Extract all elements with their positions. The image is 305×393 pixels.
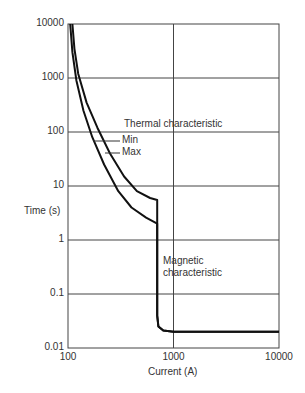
y-tick-label: 100 bbox=[4, 125, 64, 136]
chart-plot-area bbox=[0, 0, 305, 393]
magnetic-label-line1: Magnetic bbox=[163, 255, 204, 266]
y-tick-label: 10 bbox=[4, 179, 64, 190]
max-label: Max bbox=[122, 146, 141, 157]
y-axis-label: Time (s) bbox=[24, 205, 60, 216]
x-tick-label: 100 bbox=[43, 351, 93, 362]
y-tick-label: 1000 bbox=[4, 71, 64, 82]
thermal-characteristic-label: Thermal characteristic bbox=[124, 118, 222, 129]
magnetic-label-line2: characteristic bbox=[163, 267, 222, 278]
y-tick-label: 0.1 bbox=[4, 287, 64, 298]
curve-min bbox=[70, 24, 279, 332]
y-tick-label: 1 bbox=[4, 233, 64, 244]
x-axis-label: Current (A) bbox=[148, 366, 197, 377]
curve-max bbox=[72, 24, 279, 332]
x-tick-label: 1000 bbox=[149, 351, 199, 362]
x-tick-label: 10000 bbox=[254, 351, 304, 362]
min-label: Min bbox=[122, 134, 138, 145]
y-tick-label: 10000 bbox=[4, 17, 64, 28]
